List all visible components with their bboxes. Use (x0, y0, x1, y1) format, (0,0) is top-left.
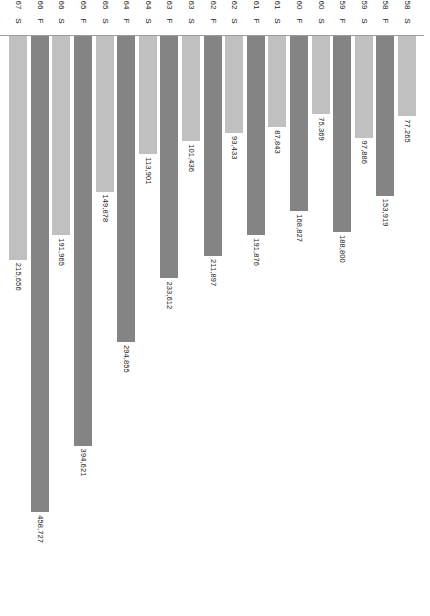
category-label-year: 61 (252, 0, 261, 12)
bar-value-label: 188,800 (338, 235, 347, 263)
category-label-year: 59 (338, 0, 347, 12)
category-label-term: S (230, 14, 239, 28)
category-label-term: S (273, 14, 282, 28)
category-label-term: F (338, 14, 347, 28)
bar-value-label: 87,843 (273, 130, 282, 154)
bar-value-label: 101,436 (187, 144, 196, 172)
category-label-term: F (209, 14, 218, 28)
category-label-term: F (165, 14, 174, 28)
bar-f-63 (160, 36, 178, 278)
bar-value-label: 458,727 (36, 515, 45, 543)
chart-canvas: 77,265153,91997,886188,80075,369168,8278… (0, 0, 430, 616)
bar-value-label: 93,433 (230, 136, 239, 160)
bar-s-67 (9, 36, 27, 260)
bar-f-64 (117, 36, 135, 342)
category-label-term: S (144, 14, 153, 28)
category-label-year: 61 (273, 0, 282, 12)
bar-value-label: 149,878 (101, 195, 110, 223)
category-label-year: 63 (187, 0, 196, 12)
bar-f-59 (333, 36, 351, 232)
bar-value-label: 191,965 (57, 238, 66, 266)
category-label-year: 65 (101, 0, 110, 12)
bar-value-label: 153,919 (381, 199, 390, 227)
category-label-term: S (317, 14, 326, 28)
category-label-year: 66 (36, 0, 45, 12)
bar-value-label: 77,265 (403, 119, 412, 143)
bar-f-58 (376, 36, 394, 196)
bar-s-64 (139, 36, 157, 154)
bar-group: 77,265153,91997,886188,80075,369168,8278… (0, 0, 430, 616)
category-label-term: S (101, 14, 110, 28)
category-label-term: F (252, 14, 261, 28)
category-label-term: S (187, 14, 196, 28)
category-label-term: F (122, 14, 131, 28)
bar-s-58 (398, 36, 416, 116)
bar-s-63 (182, 36, 200, 141)
category-label-term: F (381, 14, 390, 28)
category-label-year: 58 (381, 0, 390, 12)
bar-f-65 (74, 36, 92, 446)
category-label-year: 59 (360, 0, 369, 12)
category-label-year: 63 (165, 0, 174, 12)
category-label-year: 62 (209, 0, 218, 12)
bar-value-label: 168,827 (295, 214, 304, 242)
bar-value-label: 215,656 (14, 263, 23, 291)
bar-s-65 (96, 36, 114, 192)
category-label-term: F (36, 14, 45, 28)
category-label-year: 60 (295, 0, 304, 12)
bar-value-label: 294,855 (122, 345, 131, 373)
category-label-year: 60 (317, 0, 326, 12)
category-label-year: 62 (230, 0, 239, 12)
bar-value-label: 233,612 (165, 281, 174, 309)
bar-s-66 (52, 36, 70, 235)
bar-value-label: 211,897 (209, 259, 218, 286)
category-label-term: S (14, 14, 23, 28)
bar-chart-plot-area: 77,265153,91997,886188,80075,369168,8278… (0, 0, 430, 616)
bar-value-label: 394,621 (79, 449, 88, 477)
category-label-year: 64 (144, 0, 153, 12)
category-label-term: S (57, 14, 66, 28)
bar-value-label: 191,876 (252, 238, 261, 266)
category-label-term: F (295, 14, 304, 28)
bar-s-61 (268, 36, 286, 127)
bar-f-62 (204, 36, 222, 256)
bar-f-60 (290, 36, 308, 211)
category-label-year: 67 (14, 0, 23, 12)
bar-s-60 (312, 36, 330, 114)
category-label-year: 65 (79, 0, 88, 12)
bar-value-label: 97,886 (360, 141, 369, 165)
category-label-term: S (360, 14, 369, 28)
bar-s-62 (225, 36, 243, 133)
bar-f-66 (31, 36, 49, 512)
bar-s-59 (355, 36, 373, 138)
bar-f-61 (247, 36, 265, 235)
category-label-term: S (403, 14, 412, 28)
bar-value-label: 75,369 (317, 117, 326, 141)
category-label-year: 64 (122, 0, 131, 12)
bar-value-label: 113,901 (144, 157, 153, 184)
category-label-year: 58 (403, 0, 412, 12)
category-label-term: F (79, 14, 88, 28)
category-label-year: 66 (57, 0, 66, 12)
